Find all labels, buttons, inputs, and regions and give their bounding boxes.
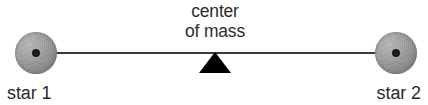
center-of-mass-label-line-2: of mass <box>2 21 428 41</box>
star-2-center-dot <box>392 49 400 57</box>
binary-star-center-of-mass-diagram: center of mass star 1 star 2 <box>0 0 428 105</box>
center-of-mass-label: center of mass <box>0 1 428 41</box>
center-of-mass-label-line-1: center <box>2 1 428 21</box>
star-2-label: star 2 <box>377 83 421 103</box>
star-1-label: star 1 <box>7 83 51 103</box>
star-1-center-dot <box>32 49 40 57</box>
center-of-mass-triangle-icon <box>199 52 231 73</box>
